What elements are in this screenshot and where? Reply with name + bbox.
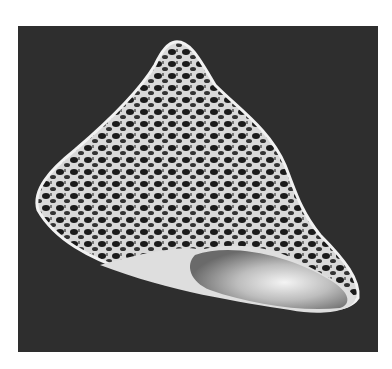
shell-illustration bbox=[0, 0, 392, 369]
